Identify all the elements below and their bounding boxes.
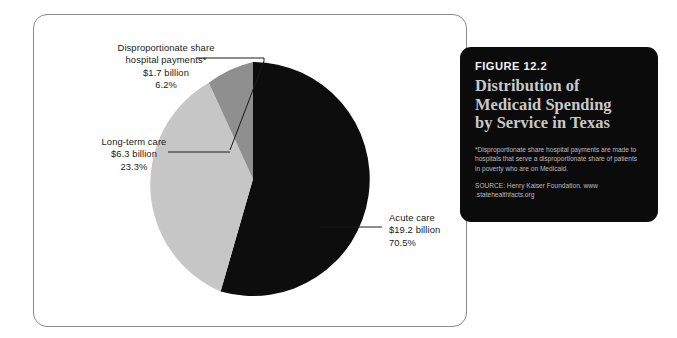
figure-source-line1: SOURCE: Henry Kaiser Foundation. www [475,182,598,189]
pie-label-long-term-care: Long-term care $6.3 billion 23.3% [70,136,198,173]
figure-caption-card: FIGURE 12.2 Distribution of Medicaid Spe… [460,47,658,222]
pie-label-disproportionate-share: Disproportionate share hospital payments… [86,42,246,92]
figure-title-line2: Medicaid Spending [475,96,643,115]
figure-page: Disproportionate share hospital payments… [0,0,677,338]
figure-title: Distribution of Medicaid Spending by Ser… [475,77,643,133]
figure-footnote: *Disproportionate share hospital payment… [475,145,643,173]
figure-source: SOURCE: Henry Kaiser Foundation. www .st… [475,181,643,200]
pie-label-acute-percent: 70.5% [389,237,509,249]
pie-label-dsh-line1: Disproportionate share [86,42,246,54]
pie-label-dsh-line2: hospital payments* [86,54,246,66]
figure-source-line2: .statehealthfacts.org [475,191,534,198]
pie-label-ltc-value: $6.3 billion [70,148,198,160]
pie-label-dsh-percent: 6.2% [86,79,246,91]
pie-label-dsh-value: $1.7 billion [86,67,246,79]
pie-label-ltc-percent: 23.3% [70,161,198,173]
figure-title-line1: Distribution of [475,77,643,96]
chart-card: Disproportionate share hospital payments… [33,14,467,327]
figure-number: FIGURE 12.2 [475,60,643,72]
pie-label-ltc-line1: Long-term care [70,136,198,148]
pie-label-acute-value: $19.2 billion [389,224,509,236]
figure-title-line3: by Service in Texas [475,114,643,133]
